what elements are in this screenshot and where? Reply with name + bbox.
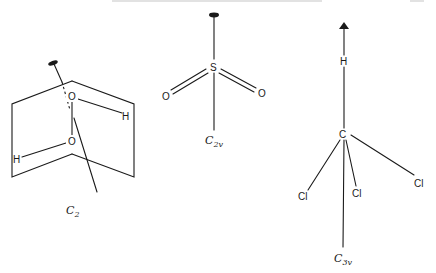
atom-h-right: H bbox=[122, 111, 129, 122]
running-header bbox=[112, 0, 424, 2]
atom-h: H bbox=[340, 56, 347, 67]
oh-bond-left bbox=[22, 143, 66, 157]
point-group-label-c2: C2 bbox=[66, 204, 80, 219]
c2-axis-marker-icon bbox=[48, 59, 59, 67]
c3v-axis-lower bbox=[343, 140, 344, 247]
left-plane bbox=[12, 81, 72, 177]
oh-bond-right bbox=[78, 99, 122, 113]
s-o-right-bond-b bbox=[219, 73, 254, 92]
atom-cl-mid: Cl bbox=[352, 188, 361, 199]
c2-axis-upper bbox=[54, 64, 62, 82]
atom-o-right: O bbox=[258, 88, 266, 99]
symmetry-figure: O O H H C2 S O O C2v H C Cl bbox=[0, 0, 436, 273]
s-o-left-bond-b bbox=[173, 73, 208, 94]
s-o-left-bond-a bbox=[171, 69, 206, 90]
c-cl-left-bond bbox=[308, 140, 340, 190]
atom-s: S bbox=[210, 62, 217, 73]
atom-o-top: O bbox=[68, 91, 76, 102]
right-plane bbox=[72, 81, 134, 177]
so2-molecule: S O O C2v bbox=[162, 13, 266, 149]
c-cl-mid-bond bbox=[346, 140, 356, 186]
atom-o-bottom: O bbox=[68, 136, 76, 147]
atom-c: C bbox=[339, 129, 346, 140]
c3v-axis-marker-icon bbox=[339, 22, 349, 29]
atom-h-left: H bbox=[13, 154, 20, 165]
c-cl-right-bond bbox=[351, 135, 414, 175]
c2-axis-lower bbox=[74, 118, 97, 192]
chcl3-molecule: H C Cl Cl Cl C3v bbox=[298, 22, 423, 267]
atom-cl-right: Cl bbox=[414, 178, 423, 189]
s-o-right-bond-a bbox=[221, 69, 256, 88]
atom-o-left: O bbox=[162, 91, 170, 102]
point-group-label-c3v: C3v bbox=[334, 252, 353, 267]
point-group-label-c2v: C2v bbox=[205, 134, 224, 149]
h2o2-molecule: O O H H C2 bbox=[12, 59, 134, 219]
atom-cl-left: Cl bbox=[298, 191, 307, 202]
